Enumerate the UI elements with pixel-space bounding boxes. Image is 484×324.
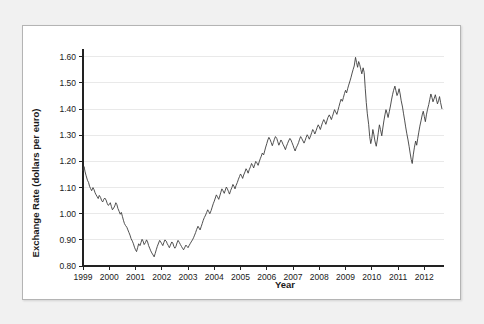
x-tick-label: 2010: [362, 272, 381, 282]
y-tick-label: 1.10: [59, 183, 76, 193]
y-axis-title: Exchange Rate (dollars per euro): [30, 109, 41, 258]
x-tick-label: 2002: [152, 272, 171, 282]
x-axis-tick-labels: 1999200020012002200320042005200620072008…: [74, 272, 434, 282]
exchange-rate-line-chart: 0.800.901.001.101.201.301.401.501.60 199…: [23, 26, 462, 301]
x-tick-label: 2004: [205, 272, 224, 282]
y-tick-label: 1.50: [59, 78, 76, 88]
x-tick-label: 2012: [415, 272, 434, 282]
y-tick-label: 1.00: [59, 209, 76, 219]
x-tick-label: 2009: [336, 272, 355, 282]
x-tick-label: 2011: [389, 272, 408, 282]
x-tick-label: 2008: [310, 272, 329, 282]
x-tick-label: 1999: [74, 272, 93, 282]
y-tick-label: 0.90: [59, 235, 76, 245]
x-tick-label: 2005: [231, 272, 250, 282]
figure-card: 0.800.901.001.101.201.301.401.501.60 199…: [22, 25, 461, 300]
x-tick-label: 2001: [126, 272, 145, 282]
x-axis-title: Year: [275, 279, 295, 290]
y-tick-label: 1.30: [59, 130, 76, 140]
y-tick-label: 0.80: [59, 261, 76, 271]
y-tick-label: 1.20: [59, 156, 76, 166]
x-tick-label: 2006: [257, 272, 276, 282]
gridlines-group: [83, 57, 444, 266]
y-axis-ticks: [79, 57, 83, 266]
y-tick-label: 1.40: [59, 104, 76, 114]
y-tick-label: 1.60: [59, 52, 76, 62]
exchange-rate-series-line: [83, 57, 442, 256]
x-tick-label: 2003: [179, 272, 198, 282]
y-axis-tick-labels: 0.800.901.001.101.201.301.401.501.60: [59, 52, 76, 271]
x-axis-ticks: [83, 266, 424, 270]
x-tick-label: 2000: [100, 272, 119, 282]
